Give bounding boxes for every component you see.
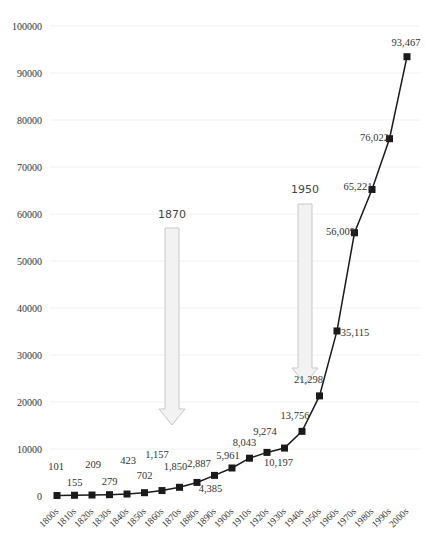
data-point (264, 449, 271, 456)
series-line (57, 57, 407, 496)
line-chart: 0100002000030000400005000060000700008000… (0, 0, 437, 538)
x-axis: 1800s1810s1820s1830s1840s1850s1860s1870s… (37, 506, 410, 529)
data-label: 4,385 (199, 483, 223, 494)
data-point (316, 392, 323, 399)
y-tick-label: 10000 (17, 444, 42, 455)
x-tick-label: 2000s (387, 506, 410, 529)
down-arrow-1950: 1950 (291, 183, 319, 384)
data-label: 76,022 (360, 132, 389, 143)
y-tick-label: 50000 (17, 256, 42, 267)
data-point (334, 327, 341, 334)
data-point (246, 455, 253, 462)
annotation-label: 1950 (291, 183, 319, 196)
data-point (281, 445, 288, 452)
annotation-arrows: 18701950 (158, 183, 319, 425)
down-arrow-1870: 1870 (158, 208, 186, 425)
data-point (229, 464, 236, 471)
data-line (57, 57, 407, 496)
data-point (89, 492, 96, 499)
data-label: 702 (137, 470, 153, 481)
data-label: 8,043 (233, 437, 257, 448)
arrow-down-icon (292, 204, 318, 384)
data-point (404, 53, 411, 60)
data-label: 56,009 (326, 226, 355, 237)
y-tick-label: 90000 (17, 68, 42, 79)
y-tick-label: 80000 (17, 115, 42, 126)
data-label: 93,467 (392, 37, 421, 48)
y-tick-label: 70000 (17, 162, 42, 173)
data-label: 35,115 (341, 327, 370, 338)
data-label: 209 (85, 459, 101, 470)
data-point (299, 428, 306, 435)
data-label: 1,850 (164, 461, 188, 472)
data-labels: 1011552092794237021,1571,8502,8874,3855,… (48, 37, 420, 495)
data-point (141, 489, 148, 496)
y-tick-label: 40000 (17, 303, 42, 314)
data-point (71, 492, 78, 499)
data-label: 65,221 (344, 181, 373, 192)
data-point (176, 484, 183, 491)
data-label: 2,887 (187, 458, 211, 469)
data-label: 155 (67, 477, 83, 488)
y-tick-label: 30000 (17, 350, 42, 361)
data-point (211, 472, 218, 479)
data-label: 101 (48, 461, 64, 472)
data-point (106, 491, 113, 498)
arrow-down-icon (159, 228, 185, 425)
data-label: 9,274 (253, 426, 277, 437)
y-tick-label: 0 (37, 491, 42, 502)
data-label: 1,157 (145, 449, 169, 460)
y-tick-label: 20000 (17, 397, 42, 408)
data-label: 423 (120, 455, 136, 466)
data-label: 10,197 (264, 457, 293, 468)
y-tick-label: 100000 (12, 21, 42, 32)
y-tick-label: 60000 (17, 209, 42, 220)
y-axis: 0100002000030000400005000060000700008000… (12, 21, 42, 502)
gridlines (50, 26, 420, 449)
data-point (54, 492, 61, 499)
annotation-label: 1870 (158, 208, 186, 221)
data-label: 279 (102, 476, 118, 487)
data-label: 21,298 (294, 374, 323, 385)
data-label: 13,756 (281, 410, 310, 421)
data-point (159, 487, 166, 494)
data-label: 5,961 (216, 450, 240, 461)
data-point (124, 491, 131, 498)
